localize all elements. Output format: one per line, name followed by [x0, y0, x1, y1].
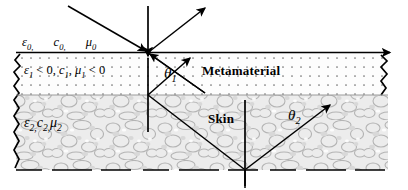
reflected-ray — [150, 8, 205, 51]
theta2-angle-label: θ2 — [288, 108, 300, 126]
skin-parameters: ε2,c2,μ2 — [24, 116, 62, 133]
metamaterial-label: Metamaterial — [202, 64, 280, 77]
ray-diagram-figure: ε0, c0, μ0 ε1 < 0, c1, μ1 < 0 ε2,c2,μ2 M… — [0, 0, 408, 190]
skin-label: Skin — [208, 112, 234, 125]
skin-layer — [16, 95, 388, 170]
theta1-angle-label: θ1 — [164, 66, 176, 84]
free-space-parameters: ε0, c0, μ0 — [22, 36, 96, 51]
diagram-canvas — [0, 0, 408, 190]
metamaterial-parameters: ε1 < 0, c1, μ1 < 0 — [24, 64, 105, 79]
